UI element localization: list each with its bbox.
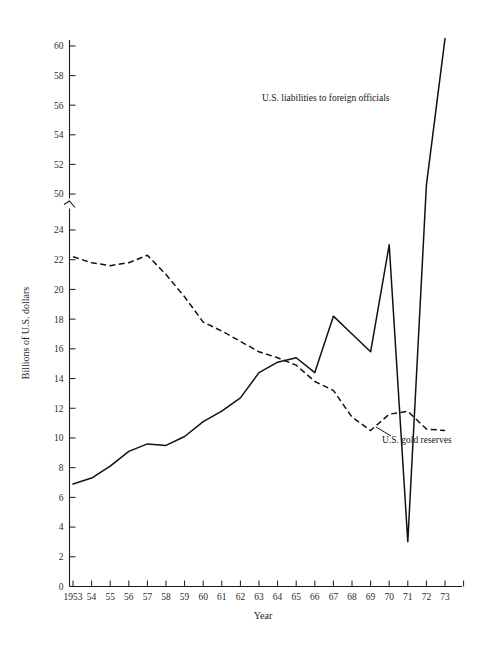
x-tick-label-66: 66 xyxy=(310,592,320,602)
x-tick-label-59: 59 xyxy=(180,592,190,602)
x-tick-label-54: 54 xyxy=(87,592,97,602)
y-tick-label-14: 14 xyxy=(54,374,64,384)
x-tick-label-73: 73 xyxy=(440,592,450,602)
y-tick-label-8: 8 xyxy=(59,463,64,473)
x-tick-label-71: 71 xyxy=(403,592,413,602)
x-tick-label-57: 57 xyxy=(143,592,153,602)
chart-figure: 024681012141618202224 505254565860 19535… xyxy=(0,0,487,646)
x-tick-label-55: 55 xyxy=(105,592,115,602)
y-tick-label-56: 56 xyxy=(54,101,64,111)
y-axis-title: Billions of U.S. dollars xyxy=(20,287,31,380)
x-tick-label-68: 68 xyxy=(347,592,357,602)
x-tick-label-64: 64 xyxy=(273,592,283,602)
line-chart-canvas: 024681012141618202224 505254565860 19535… xyxy=(0,0,487,646)
x-tick-label-58: 58 xyxy=(161,592,171,602)
x-tick-label-70: 70 xyxy=(384,592,394,602)
annotation-us-gold-reserves-label: U.S. gold reserves xyxy=(382,435,452,445)
y-axis-ticks-upper: 505254565860 xyxy=(54,41,76,199)
y-tick-label-10: 10 xyxy=(54,433,64,443)
annotation-us-liabilities-label: U.S. liabilities to foreign officials xyxy=(262,93,390,103)
x-axis-title: Year xyxy=(254,610,273,621)
x-tick-label-1953: 1953 xyxy=(64,592,83,602)
y-tick-label-2: 2 xyxy=(59,552,64,562)
y-tick-label-12: 12 xyxy=(54,404,64,414)
y-tick-label-24: 24 xyxy=(54,225,64,235)
x-tick-label-56: 56 xyxy=(124,592,134,602)
y-tick-label-4: 4 xyxy=(59,522,64,532)
y-tick-label-0: 0 xyxy=(59,582,64,592)
y-tick-label-52: 52 xyxy=(54,160,64,170)
y-axis xyxy=(64,40,75,587)
x-tick-label-61: 61 xyxy=(217,592,227,602)
y-tick-label-54: 54 xyxy=(54,130,64,140)
x-axis-ticks: 1953545556575859606162636465666768697071… xyxy=(64,581,464,602)
y-tick-label-58: 58 xyxy=(54,71,64,81)
x-tick-label-67: 67 xyxy=(329,592,339,602)
y-tick-label-22: 22 xyxy=(54,255,64,265)
x-tick-label-65: 65 xyxy=(291,592,301,602)
y-axis-ticks-lower: 024681012141618202224 xyxy=(54,225,76,592)
y-tick-label-60: 60 xyxy=(54,41,64,51)
x-tick-label-72: 72 xyxy=(422,592,432,602)
y-tick-label-18: 18 xyxy=(54,315,64,325)
x-tick-label-69: 69 xyxy=(366,592,376,602)
y-tick-label-16: 16 xyxy=(54,344,64,354)
y-tick-label-20: 20 xyxy=(54,285,64,295)
y-tick-label-6: 6 xyxy=(59,493,64,503)
x-tick-label-62: 62 xyxy=(236,592,246,602)
axis-break-marker xyxy=(64,201,75,208)
x-tick-label-63: 63 xyxy=(254,592,264,602)
y-tick-label-50: 50 xyxy=(54,189,64,199)
series-line-us-liabilities-to-foreign-officials xyxy=(73,39,445,542)
x-tick-label-60: 60 xyxy=(198,592,208,602)
series-line-us-gold-reserves xyxy=(73,255,445,430)
